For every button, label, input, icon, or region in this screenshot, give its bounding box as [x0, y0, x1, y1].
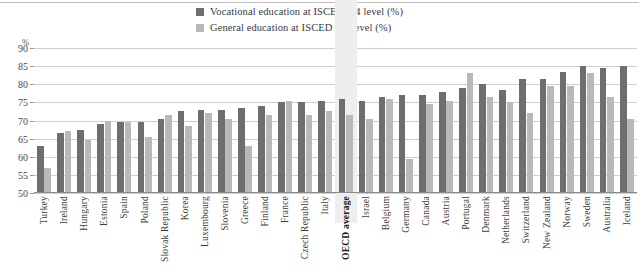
bar-general[interactable] — [567, 86, 574, 193]
bar-group[interactable] — [557, 48, 577, 193]
bar-general[interactable] — [205, 113, 212, 193]
legend-item-general: General education at ISCED 3/4 level (%) — [196, 20, 403, 35]
bar-group[interactable] — [295, 48, 315, 193]
bar-group[interactable] — [155, 48, 175, 193]
bar-general[interactable] — [346, 115, 353, 193]
bar-group[interactable] — [396, 48, 416, 193]
bar-general[interactable] — [185, 126, 192, 193]
bar-general[interactable] — [165, 115, 172, 193]
bar-general[interactable] — [406, 159, 413, 193]
bar-general[interactable] — [627, 119, 634, 193]
bar-group[interactable] — [135, 48, 155, 193]
bar-vocational[interactable] — [178, 111, 185, 193]
bar-group[interactable] — [436, 48, 456, 193]
bar-group[interactable] — [114, 48, 134, 193]
bar-group[interactable] — [54, 48, 74, 193]
bar-vocational[interactable] — [600, 68, 607, 193]
bar-group[interactable] — [74, 48, 94, 193]
bar-group[interactable] — [34, 48, 54, 193]
bar-general[interactable] — [587, 73, 594, 193]
bar-general[interactable] — [366, 119, 373, 193]
bar-group[interactable] — [577, 48, 597, 193]
bar-vocational[interactable] — [519, 79, 526, 193]
bar-vocational[interactable] — [499, 90, 506, 193]
bar-vocational[interactable] — [580, 66, 587, 193]
x-tick-label: Denmark — [481, 196, 491, 233]
bar-group[interactable] — [516, 48, 536, 193]
bar-vocational[interactable] — [459, 88, 466, 193]
bar-general[interactable] — [125, 122, 132, 193]
bar-vocational[interactable] — [439, 92, 446, 194]
bar-general[interactable] — [326, 111, 333, 193]
bar-vocational[interactable] — [57, 133, 64, 193]
bar-general[interactable] — [266, 115, 273, 193]
bar-general[interactable] — [386, 99, 393, 193]
bar-general[interactable] — [145, 137, 152, 193]
bar-general[interactable] — [426, 104, 433, 193]
bar-group[interactable] — [356, 48, 376, 193]
bar-vocational[interactable] — [238, 108, 245, 193]
bar-group[interactable] — [336, 48, 356, 193]
bar-general[interactable] — [225, 119, 232, 193]
bar-group[interactable] — [275, 48, 295, 193]
bar-group[interactable] — [215, 48, 235, 193]
bar-group[interactable] — [416, 48, 436, 193]
bar-general[interactable] — [44, 168, 51, 193]
bar-general[interactable] — [487, 97, 494, 193]
x-tick-label: Luxembourg — [200, 196, 210, 247]
bar-general[interactable] — [467, 73, 474, 193]
bar-general[interactable] — [105, 121, 112, 194]
bar-vocational[interactable] — [37, 146, 44, 193]
bar-vocational[interactable] — [138, 122, 145, 193]
bar-general[interactable] — [245, 146, 252, 193]
bar-group[interactable] — [537, 48, 557, 193]
bar-vocational[interactable] — [620, 66, 627, 193]
bar-general[interactable] — [306, 115, 313, 193]
bar-group[interactable] — [496, 48, 516, 193]
bar-general[interactable] — [607, 97, 614, 193]
bar-general[interactable] — [547, 86, 554, 193]
bar-vocational[interactable] — [97, 124, 104, 193]
bar-vocational[interactable] — [77, 130, 84, 193]
bar-general[interactable] — [286, 101, 293, 193]
y-tick-label-50: 50 — [18, 188, 28, 199]
bar-general[interactable] — [65, 131, 72, 193]
bar-group[interactable] — [617, 48, 637, 193]
bar-group[interactable] — [195, 48, 215, 193]
x-tick-label: Hungary — [79, 196, 89, 231]
bar-group[interactable] — [255, 48, 275, 193]
bar-vocational[interactable] — [479, 84, 486, 193]
bar-vocational[interactable] — [218, 110, 225, 193]
bar-group[interactable] — [235, 48, 255, 193]
bar-vocational[interactable] — [318, 101, 325, 193]
x-tick-label: Norway — [562, 196, 572, 228]
bar-group[interactable] — [456, 48, 476, 193]
bar-vocational[interactable] — [399, 95, 406, 193]
bar-vocational[interactable] — [339, 99, 346, 193]
bar-vocational[interactable] — [298, 102, 305, 193]
bar-vocational[interactable] — [540, 79, 547, 193]
bar-vocational[interactable] — [419, 95, 426, 193]
bar-general[interactable] — [85, 140, 92, 193]
bar-vocational[interactable] — [117, 122, 124, 193]
x-tick-label: Ireland — [59, 196, 69, 224]
bar-vocational[interactable] — [379, 97, 386, 193]
y-tick-label-70: 70 — [18, 115, 28, 126]
bar-general[interactable] — [527, 113, 534, 193]
bar-general[interactable] — [507, 102, 514, 193]
bar-vocational[interactable] — [258, 106, 265, 193]
bar-group[interactable] — [175, 48, 195, 193]
bar-general[interactable] — [446, 101, 453, 193]
bar-group[interactable] — [597, 48, 617, 193]
bar-vocational[interactable] — [278, 102, 285, 193]
bar-vocational[interactable] — [359, 101, 366, 193]
bar-vocational[interactable] — [158, 119, 165, 193]
bar-vocational[interactable] — [198, 110, 205, 193]
bar-group[interactable] — [476, 48, 496, 193]
bar-group[interactable] — [376, 48, 396, 193]
bar-vocational[interactable] — [560, 72, 567, 193]
bar-group[interactable] — [94, 48, 114, 193]
y-tick-label-85: 85 — [18, 61, 28, 72]
bar-group[interactable] — [315, 48, 335, 193]
x-tick-label: Greece — [240, 196, 250, 224]
